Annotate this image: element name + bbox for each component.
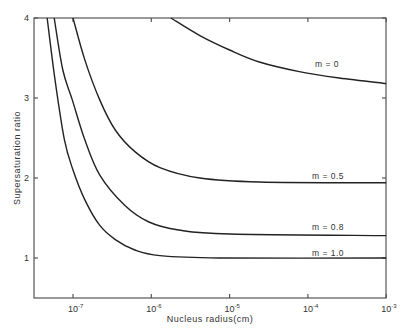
y-tick-label: 1 (24, 253, 29, 263)
y-tick-label: 3 (24, 93, 29, 103)
curve-labels: m = 0m = 0.5m = 0.8m = 1.0 (312, 59, 344, 258)
x-tick-label: 10-3 (381, 303, 397, 314)
supersaturation-chart: 10-710-610-510-410-3 1234 m = 0m = 0.5m … (0, 0, 406, 334)
x-axis-title: Nucleus radius(cm) (167, 314, 254, 324)
curve-label: m = 1.0 (312, 248, 344, 258)
y-tick-label: 4 (24, 13, 29, 23)
curve-m05 (73, 18, 386, 183)
y-tick-label: 2 (24, 173, 29, 183)
curve-label: m = 0 (315, 59, 339, 69)
curve-m0 (171, 18, 386, 84)
x-tick-label: 10-6 (146, 303, 162, 314)
x-tick-label: 10-5 (225, 303, 241, 314)
y-axis-title: Supersaturation ratio (12, 111, 22, 205)
curve-label: m = 0.8 (312, 222, 344, 232)
x-axis-ticks: 10-710-610-510-410-3 (68, 18, 397, 314)
curve-label: m = 0.5 (312, 171, 344, 181)
x-tick-label: 10-7 (68, 303, 84, 314)
curve-m08 (54, 18, 386, 236)
x-tick-label: 10-4 (303, 303, 319, 314)
